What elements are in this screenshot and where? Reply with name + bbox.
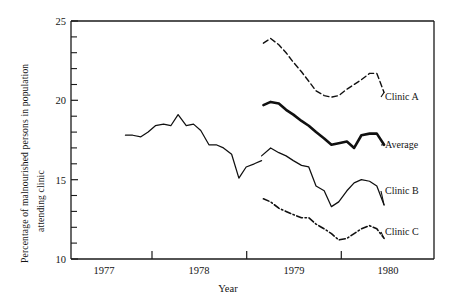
series-label-clinic-b: Clinic B [385, 185, 419, 196]
x-axis-title: Year [218, 283, 238, 294]
data-curves [125, 38, 384, 240]
x-axis-ticks [152, 251, 341, 259]
series-label-clinic-c: Clinic C [385, 226, 419, 237]
series-label-average: Average [385, 139, 419, 150]
x-tick-label-1979: 1979 [284, 265, 305, 276]
curve-average-thick [263, 102, 384, 148]
y-axis-major-ticks [71, 21, 78, 259]
curve-clinic-a [263, 38, 384, 97]
chart-figure: 25 20 15 10 1977 1978 1979 1980 Year Per… [0, 0, 453, 305]
curve-clinic-b [262, 148, 385, 207]
y-tick-label-10: 10 [56, 254, 67, 265]
x-tick-label-1977: 1977 [94, 265, 115, 276]
x-tick-label-1980: 1980 [378, 265, 399, 276]
label-leader-lines [381, 92, 384, 238]
y-tick-label-15: 15 [56, 175, 67, 186]
line-chart-svg: 25 20 15 10 1977 1978 1979 1980 Year Per… [0, 0, 453, 305]
series-label-clinic-a: Clinic A [385, 91, 419, 102]
y-axis-title-line2: attending clinic [35, 170, 46, 232]
y-axis-title-line1: Percentage of malnourished persons in po… [19, 64, 30, 263]
leader-line-clinic-a [381, 92, 384, 97]
y-tick-label-25: 25 [56, 16, 67, 27]
x-tick-label-1978: 1978 [189, 265, 210, 276]
curve-clinic-c [263, 199, 384, 240]
y-axis-minor-ticks [71, 37, 77, 243]
curve-average-early-thin [125, 115, 261, 178]
y-tick-label-20: 20 [56, 95, 67, 106]
